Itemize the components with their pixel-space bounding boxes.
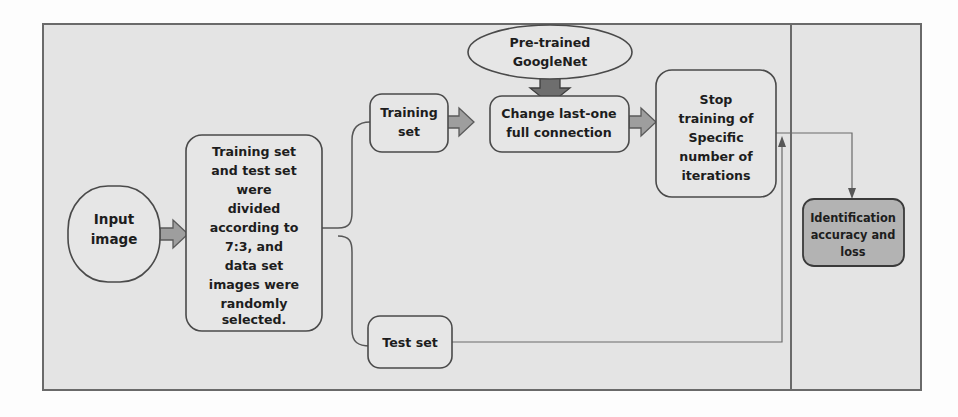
node-change-full-connection[interactable]: Change last-one full connection [490, 96, 629, 152]
node-training-set-line-1: set [398, 124, 420, 139]
node-split-description-line-8: randomly [221, 296, 288, 311]
node-pretrained-googlenet[interactable]: Pre-trained GoogleNet [468, 25, 632, 79]
node-stop-training-line-2: Specific [688, 130, 743, 145]
node-identification-result-line-1: accuracy and [811, 228, 896, 242]
node-pretrained-googlenet-line-0: Pre-trained [510, 35, 591, 50]
node-identification-result-line-2: loss [840, 245, 866, 259]
node-stop-training-line-4: iterations [681, 168, 750, 183]
node-identification-result[interactable]: Identification accuracy and loss [803, 199, 904, 266]
node-split-description-line-7: images were [209, 277, 299, 292]
node-stop-training-line-3: number of [679, 149, 753, 164]
node-split-description-line-1: and test set [211, 163, 296, 178]
node-split-description-line-5: 7:3, and [225, 239, 283, 254]
node-stop-training-line-1: training of [679, 111, 754, 126]
flowchart-figure: Input image Training set and test set we… [0, 0, 958, 417]
node-split-description-line-4: according to [210, 220, 299, 235]
node-input-image-line-0: Input [94, 211, 135, 227]
node-change-full-connection-line-0: Change last-one [501, 106, 616, 121]
node-split-description[interactable]: Training set and test set were divided a… [186, 135, 322, 331]
diagram-panel [43, 24, 921, 390]
node-training-set-line-0: Training [380, 105, 438, 120]
node-split-description-line-9: selected. [222, 312, 287, 327]
node-stop-training[interactable]: Stop training of Specific number of iter… [656, 70, 776, 197]
node-identification-result-line-0: Identification [810, 211, 896, 225]
node-stop-training-line-0: Stop [700, 92, 733, 107]
node-split-description-line-6: data set [225, 258, 283, 273]
node-input-image[interactable]: Input image [68, 186, 160, 282]
node-split-description-line-2: were [237, 182, 272, 197]
node-test-set[interactable]: Test set [368, 316, 452, 368]
node-training-set[interactable]: Training set [370, 94, 448, 152]
node-test-set-label: Test set [382, 335, 437, 350]
node-change-full-connection-line-1: full connection [506, 125, 611, 140]
flowchart-canvas: Input image Training set and test set we… [0, 0, 958, 417]
node-split-description-line-0: Training set [212, 144, 296, 159]
node-split-description-line-3: divided [228, 201, 280, 216]
node-input-image-line-1: image [91, 231, 138, 247]
node-pretrained-googlenet-line-1: GoogleNet [513, 54, 588, 69]
